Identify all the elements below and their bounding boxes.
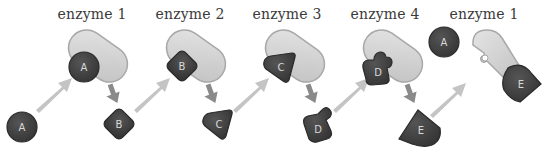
molecule-c-product: C	[203, 110, 232, 139]
molecule-b-product: B	[102, 107, 136, 141]
arrow-substrate-in-1	[36, 78, 72, 113]
arrow-substrate-in-3	[233, 78, 269, 113]
svg-text:A: A	[19, 122, 26, 133]
molecule-a-free: A	[429, 27, 459, 57]
enzyme-2	[159, 23, 232, 89]
svg-text:D: D	[314, 124, 322, 135]
arrow-substrate-in-4	[333, 78, 369, 113]
svg-text:D: D	[374, 67, 382, 78]
arrow-product-out-2	[201, 82, 221, 106]
molecule-a-bound: A	[69, 52, 99, 82]
arrow-product-out-1	[103, 82, 123, 106]
molecule-c-bound: C	[264, 53, 295, 82]
svg-text:A: A	[441, 37, 448, 48]
molecule-a-substrate: A	[7, 112, 37, 142]
svg-text:C: C	[216, 119, 223, 130]
svg-text:E: E	[518, 79, 524, 90]
arrow-substrate-in-2	[134, 78, 170, 113]
enzyme-1	[61, 23, 134, 89]
molecule-d-product: D	[304, 108, 332, 142]
svg-text:B: B	[116, 119, 123, 130]
enzyme-pathway-diagram: enzyme 1 enzyme 2 enzyme 3 enzyme 4 enzy…	[0, 0, 553, 154]
svg-text:A: A	[81, 62, 88, 73]
svg-text:E: E	[418, 125, 424, 136]
molecule-e-bound: E	[503, 65, 541, 102]
svg-text:B: B	[179, 61, 186, 72]
svg-text:C: C	[278, 62, 285, 73]
arrow-product-out-4	[400, 82, 420, 106]
arrow-product-out-3	[301, 82, 321, 106]
arrow-product-in-5	[430, 83, 466, 118]
